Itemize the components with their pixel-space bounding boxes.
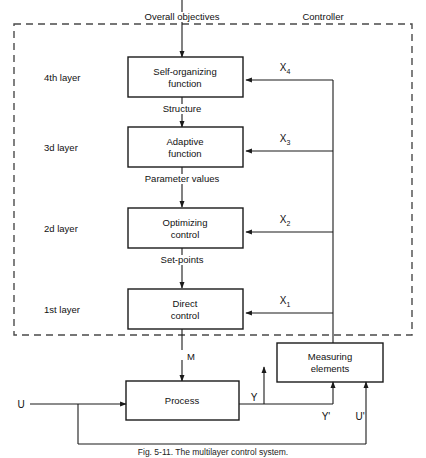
figure-canvas: Controller Overall objectives 4th layer … xyxy=(0,0,426,458)
layer-label-4th: 4th layer xyxy=(44,72,80,83)
structure-label: Structure xyxy=(163,103,202,114)
block-process-label: Process xyxy=(165,395,200,406)
signal-x3-label: X3 xyxy=(280,133,291,146)
signal-x2-label: X2 xyxy=(280,214,291,227)
measured-input-u-prime-label: U' xyxy=(355,411,364,422)
controller-zone-label: Controller xyxy=(302,11,343,22)
set-points-label: Set-points xyxy=(161,254,204,265)
block-adaptive-function-line1: Adaptive xyxy=(167,136,204,147)
layer-label-3d: 3d layer xyxy=(44,142,78,153)
block-direct-control xyxy=(128,289,243,329)
output-y-label: Y xyxy=(251,392,258,403)
overall-objectives-label: Overall objectives xyxy=(145,11,220,22)
block-direct-control-line1: Direct xyxy=(173,298,198,309)
layer-label-2d: 2d layer xyxy=(44,223,78,234)
input-u-label: U xyxy=(17,399,24,410)
block-direct-control-line2: control xyxy=(171,310,200,321)
block-optimizing-control-line2: control xyxy=(171,229,200,240)
layer-label-1st: 1st layer xyxy=(44,304,80,315)
manipulated-variable-label: M xyxy=(187,351,195,362)
block-self-organizing-function-line2: function xyxy=(168,78,201,89)
block-self-organizing-function-line1: Self-organizing xyxy=(153,66,216,77)
block-measuring-elements-line1: Measuring xyxy=(308,351,352,362)
signal-x4-label: X4 xyxy=(280,62,291,75)
measured-output-y-prime-label: Y' xyxy=(322,411,331,422)
block-measuring-elements-line2: elements xyxy=(311,363,350,374)
block-optimizing-control xyxy=(128,208,243,248)
block-optimizing-control-line1: Optimizing xyxy=(163,217,208,228)
block-self-organizing-function xyxy=(128,57,243,97)
signal-x1-label: X1 xyxy=(280,295,291,308)
parameter-values-label: Parameter values xyxy=(145,173,220,184)
figure-caption: Fig. 5-11. The multilayer control system… xyxy=(138,447,288,457)
block-adaptive-function xyxy=(128,127,243,167)
block-adaptive-function-line2: function xyxy=(168,148,201,159)
